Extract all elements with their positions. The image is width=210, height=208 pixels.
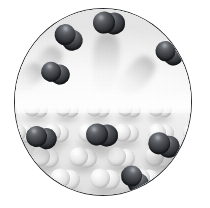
molecular-scene <box>15 9 191 195</box>
circular-frame <box>14 8 192 196</box>
illustration-stage <box>0 0 210 208</box>
